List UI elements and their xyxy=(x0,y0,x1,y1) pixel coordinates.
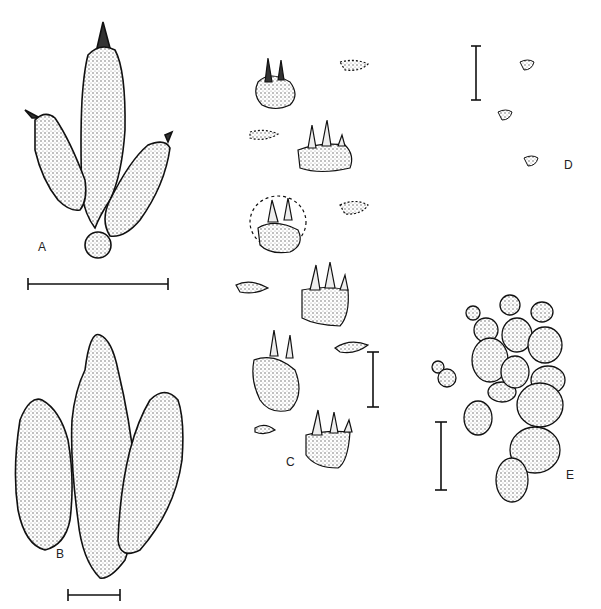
panel-label-a: A xyxy=(38,240,46,254)
trackway-c xyxy=(236,58,368,468)
panel-label-c: C xyxy=(286,455,295,469)
footprint-b xyxy=(15,334,182,578)
panel-label-d: D xyxy=(564,158,573,172)
footprint-e xyxy=(432,295,565,502)
footprint-figure xyxy=(0,0,601,609)
footprint-a xyxy=(25,22,172,258)
footprints-d xyxy=(498,60,538,166)
panel-label-e: E xyxy=(566,468,574,482)
panel-label-b: B xyxy=(56,547,64,561)
